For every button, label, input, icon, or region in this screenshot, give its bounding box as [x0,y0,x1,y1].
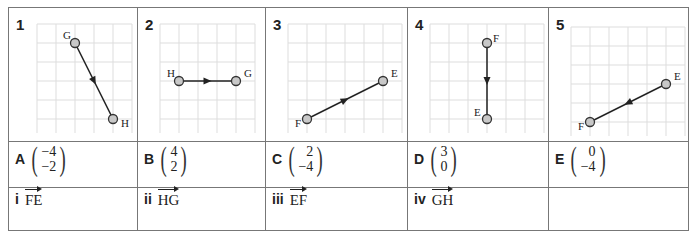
vector-letter: A [15,151,25,167]
vector-diagram: HG [156,18,256,133]
panel-4: 4FE [408,8,549,142]
column-vector-e: E(0−4) [549,142,689,188]
named-vector-ii: iiHG [138,188,266,231]
vector-numeral: iv [414,191,426,207]
vector-name: GH [432,188,454,209]
vector-x: 4 [170,144,177,159]
vector-diagram: GH [33,18,133,133]
vector-diagram: FE [426,18,546,133]
vector-diagram: FE [284,18,404,133]
vector-x: 2 [306,144,313,159]
column-vector: (0−4) [568,142,608,176]
svg-text:F: F [578,120,584,132]
svg-text:E: E [674,70,681,82]
vector-x: −4 [41,144,56,159]
column-vector-b: B(42) [138,142,266,188]
column-vector: (−4−2) [29,142,69,176]
svg-text:F: F [493,32,499,44]
column-vector: (2−4) [286,142,326,176]
column-vector: (30) [428,142,460,176]
vector-numeral: ii [144,191,152,207]
vector-y: 2 [170,159,177,174]
svg-text:F: F [295,117,301,129]
named-vector-i: iFE [9,188,138,231]
vector-y: −4 [581,159,596,174]
named-vector-iv: ivGH [408,188,549,231]
svg-text:E: E [391,67,398,79]
panel-number: 2 [145,16,153,33]
vector-letter: C [272,151,282,167]
panel-3: 3FE [266,8,408,142]
vector-y: −4 [298,159,313,174]
vector-numeral: iii [272,191,284,207]
panel-2: 2HG [138,8,266,142]
svg-text:H: H [121,117,129,129]
named-vector-iii: iiiEF [266,188,408,231]
vector-name: HG [158,188,180,209]
panel-number: 3 [273,16,281,33]
matching-table: 1GH 2HG 3FE 4FE 5EF A(−4−2) B(42) C(2−4)… [8,7,689,231]
panel-number: 5 [556,16,564,33]
empty-cell [549,188,689,231]
vector-diagram: EF [567,21,687,136]
vector-name: FE [25,188,43,209]
column-vector-d: D(30) [408,142,549,188]
vector-y: 0 [440,159,447,174]
svg-text:E: E [474,106,481,118]
vector-numeral: i [15,191,19,207]
panel-number: 1 [16,16,24,33]
column-vector: (42) [158,142,190,176]
svg-text:G: G [244,67,252,79]
svg-text:H: H [167,67,175,79]
panel-1: 1GH [9,8,138,142]
column-vector-c: C(2−4) [266,142,408,188]
vector-letter: E [555,151,564,167]
panel-number: 4 [415,16,423,33]
vector-x: 3 [440,144,447,159]
vector-x: 0 [589,144,596,159]
vector-letter: B [144,151,154,167]
vector-y: −2 [41,159,56,174]
vector-letter: D [414,151,424,167]
panel-5: 5EF [549,8,689,142]
column-vector-a: A(−4−2) [9,142,138,188]
vector-name: EF [290,188,308,209]
svg-text:G: G [63,29,71,41]
